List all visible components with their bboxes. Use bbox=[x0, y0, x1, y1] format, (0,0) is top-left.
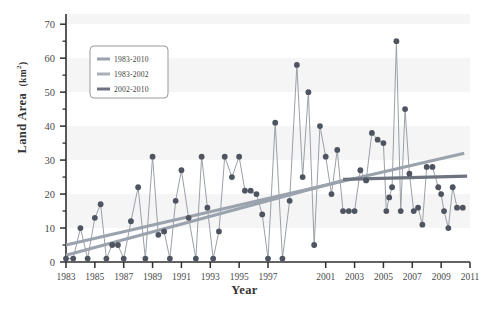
x-tick-label: 1993 bbox=[201, 272, 220, 282]
data-point bbox=[109, 242, 115, 248]
data-point bbox=[115, 242, 121, 248]
data-point bbox=[142, 256, 148, 262]
data-point bbox=[346, 208, 352, 214]
data-point bbox=[98, 201, 104, 207]
data-point bbox=[179, 167, 185, 173]
legend: 1983-20101983-20022002-2010 bbox=[90, 46, 168, 98]
data-point bbox=[340, 208, 346, 214]
x-tick-label: 1991 bbox=[172, 272, 191, 282]
data-point bbox=[78, 225, 84, 231]
band bbox=[67, 14, 470, 24]
data-point bbox=[173, 198, 179, 204]
x-axis-ticks: 1983198519871989199119931995199720012003… bbox=[57, 262, 480, 282]
legend-label: 1983-2002 bbox=[114, 70, 149, 79]
y-tick-label: 20 bbox=[45, 189, 56, 200]
data-point bbox=[280, 256, 286, 262]
data-point bbox=[454, 205, 460, 211]
data-point bbox=[300, 174, 306, 180]
x-tick-label: 1997 bbox=[259, 272, 278, 282]
data-point bbox=[222, 154, 228, 160]
data-point bbox=[334, 147, 340, 153]
x-tick-label: 1987 bbox=[114, 272, 133, 282]
data-point bbox=[438, 191, 444, 197]
data-point bbox=[167, 256, 173, 262]
data-point bbox=[407, 171, 413, 177]
data-point bbox=[415, 205, 421, 211]
x-tick-label: 2009 bbox=[432, 272, 451, 282]
data-point bbox=[121, 256, 127, 262]
data-point bbox=[402, 106, 408, 112]
data-point bbox=[363, 178, 369, 184]
y-axis-ticks: 010203040506070 bbox=[45, 19, 67, 268]
data-point bbox=[311, 242, 317, 248]
data-point bbox=[161, 229, 167, 235]
data-point bbox=[375, 137, 381, 143]
band bbox=[67, 126, 470, 160]
data-point bbox=[323, 154, 329, 160]
data-point bbox=[236, 154, 242, 160]
chart-figure: Land Area (km2) Year 0102030405060701983… bbox=[0, 0, 489, 309]
data-point bbox=[317, 123, 323, 129]
data-point bbox=[460, 205, 466, 211]
y-tick-label: 50 bbox=[45, 87, 56, 98]
x-tick-label: 1995 bbox=[230, 272, 249, 282]
data-point bbox=[272, 120, 278, 126]
data-point bbox=[205, 205, 211, 211]
data-point bbox=[306, 89, 312, 95]
data-point bbox=[352, 208, 358, 214]
y-tick-label: 0 bbox=[50, 257, 55, 268]
data-point bbox=[135, 184, 141, 190]
data-point bbox=[248, 188, 254, 194]
data-point bbox=[369, 130, 375, 136]
x-tick-label: 2003 bbox=[345, 272, 364, 282]
data-point bbox=[199, 154, 205, 160]
y-tick-label: 60 bbox=[45, 53, 56, 64]
data-point bbox=[92, 215, 98, 221]
data-point bbox=[287, 198, 293, 204]
data-point bbox=[63, 256, 69, 262]
data-point bbox=[155, 232, 161, 238]
data-point bbox=[435, 184, 441, 190]
x-tick-label: 1989 bbox=[143, 272, 162, 282]
data-point bbox=[357, 167, 363, 173]
data-point bbox=[389, 184, 395, 190]
data-point bbox=[242, 188, 248, 194]
data-point bbox=[216, 229, 222, 235]
data-point bbox=[70, 256, 76, 262]
data-point bbox=[441, 208, 447, 214]
data-point bbox=[419, 222, 425, 228]
x-tick-label: 2005 bbox=[374, 272, 393, 282]
data-point bbox=[265, 256, 271, 262]
data-point bbox=[383, 208, 389, 214]
y-tick-label: 10 bbox=[45, 223, 56, 234]
plot-area: 0102030405060701983198519871989199119931… bbox=[0, 0, 489, 309]
x-tick-label: 1983 bbox=[57, 272, 76, 282]
y-tick-label: 40 bbox=[45, 121, 56, 132]
data-point bbox=[193, 256, 199, 262]
data-point bbox=[128, 218, 134, 224]
x-tick-label: 1985 bbox=[85, 272, 104, 282]
y-tick-label: 70 bbox=[45, 19, 56, 30]
data-point bbox=[104, 256, 110, 262]
legend-label: 1983-2010 bbox=[114, 55, 149, 64]
data-point bbox=[445, 225, 451, 231]
x-tick-label: 2007 bbox=[403, 272, 422, 282]
legend-label: 2002-2010 bbox=[114, 85, 149, 94]
data-point bbox=[394, 38, 400, 44]
data-point bbox=[229, 174, 235, 180]
data-point bbox=[424, 164, 430, 170]
data-point bbox=[186, 215, 192, 221]
x-tick-label: 2011 bbox=[461, 272, 480, 282]
data-point bbox=[398, 208, 404, 214]
data-point bbox=[381, 140, 387, 146]
data-point bbox=[329, 191, 335, 197]
x-tick-label: 2001 bbox=[316, 272, 335, 282]
data-point bbox=[259, 212, 265, 218]
data-point bbox=[294, 62, 300, 68]
data-point bbox=[254, 191, 260, 197]
data-point bbox=[210, 256, 216, 262]
data-point bbox=[386, 195, 392, 201]
data-point bbox=[430, 164, 436, 170]
data-point bbox=[450, 184, 456, 190]
data-point bbox=[85, 256, 91, 262]
